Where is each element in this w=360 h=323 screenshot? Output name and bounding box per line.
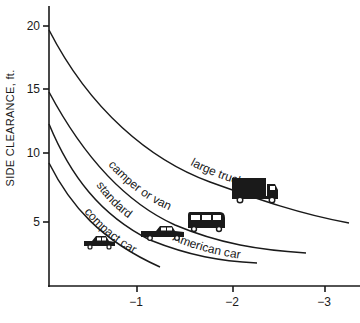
side-clearance-chart: 20 15 10 5 −1 −2 −3 SIDE CLEARANCE, ft. … — [0, 0, 360, 323]
y-tick-5: 5 — [33, 215, 40, 229]
x-tick-1: −1 — [129, 295, 143, 309]
large-truck-curve — [49, 30, 349, 223]
x-tick-2: −2 — [225, 295, 239, 309]
x-ticks: −1 −2 −3 — [129, 286, 331, 309]
standard-car-icon — [141, 226, 184, 240]
large-truck-icon — [232, 178, 278, 203]
camper-van-curve — [49, 92, 306, 253]
x-tick-3: −3 — [317, 295, 331, 309]
van-icon — [188, 212, 225, 232]
compact-car-curve — [49, 163, 160, 267]
y-tick-10: 10 — [27, 146, 41, 160]
y-axis-label: SIDE CLEARANCE, ft. — [4, 70, 16, 187]
y-ticks: 20 15 10 5 — [27, 19, 49, 229]
y-tick-15: 15 — [27, 82, 41, 96]
y-tick-20: 20 — [27, 19, 41, 33]
